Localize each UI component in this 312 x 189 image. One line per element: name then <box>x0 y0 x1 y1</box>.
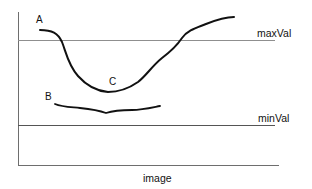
point-label-c: C <box>109 77 116 87</box>
x-axis-label: image <box>143 173 172 184</box>
point-label-a: A <box>36 15 43 25</box>
min-threshold-label: minVal <box>258 113 289 124</box>
max-threshold-label: maxVal <box>257 28 291 39</box>
curve-b <box>55 104 160 113</box>
threshold-diagram: A B C maxVal minVal image <box>0 0 312 189</box>
curve-a <box>40 17 234 92</box>
point-label-b: B <box>45 92 52 102</box>
